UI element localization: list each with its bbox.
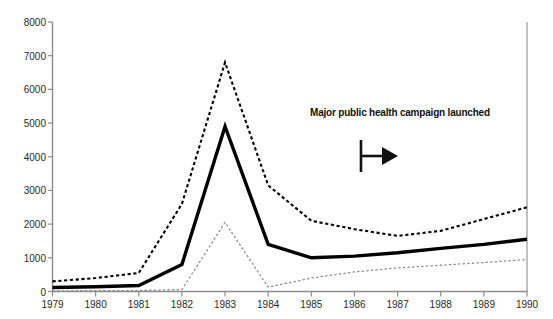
- x-axis-tick-label: 1988: [430, 299, 452, 310]
- y-axis-tick-label: 6000: [0, 84, 46, 95]
- y-axis-tick-label: 4000: [0, 151, 46, 162]
- x-axis-tick-label: 1981: [128, 299, 150, 310]
- y-axis-tick-label: 8000: [0, 17, 46, 28]
- campaign-marker-icon: [361, 140, 398, 172]
- chart-container: 010002000300040005000600070008000 197919…: [0, 0, 553, 319]
- y-axis-tick-label: 5000: [0, 118, 46, 129]
- x-axis-tick-label: 1990: [516, 299, 538, 310]
- y-axis-tick-label: 7000: [0, 50, 46, 61]
- campaign-annotation-label: Major public health campaign launched: [310, 107, 490, 118]
- x-axis-tick-label: 1989: [473, 299, 495, 310]
- x-axis-ticks: [53, 292, 528, 297]
- y-axis-tick-label: 2000: [0, 219, 46, 230]
- x-axis-tick-label: 1986: [343, 299, 365, 310]
- y-axis-tick-label: 3000: [0, 185, 46, 196]
- x-axis-tick-label: 1987: [386, 299, 408, 310]
- x-axis-tick-label: 1982: [171, 299, 193, 310]
- series-line-central-estimate: [53, 126, 528, 287]
- series-line-lower-bound: [53, 222, 528, 290]
- x-axis-tick-label: 1984: [257, 299, 279, 310]
- y-axis-tick-label: 0: [0, 286, 46, 297]
- x-axis-tick-label: 1980: [85, 299, 107, 310]
- x-axis-tick-label: 1979: [41, 299, 63, 310]
- x-axis-tick-label: 1985: [300, 299, 322, 310]
- y-axis-tick-label: 1000: [0, 252, 46, 263]
- chart-plot-area: [0, 0, 553, 319]
- x-axis-tick-label: 1983: [214, 299, 236, 310]
